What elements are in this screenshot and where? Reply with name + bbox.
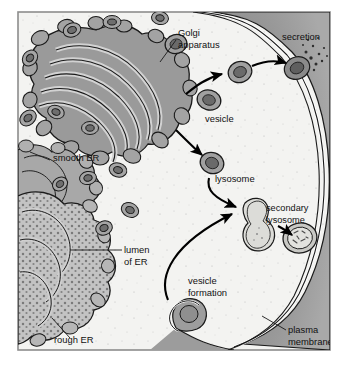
- cell-diagram-figure: Golgiapparatus secretion vesicle smooth …: [0, 0, 348, 365]
- label-secondary-lysosome: secondarylysosome: [266, 203, 309, 225]
- label-lumen-of-er: lumenof ER: [124, 244, 150, 267]
- label-lysosome: lysosome: [215, 173, 255, 184]
- label-vesicle: vesicle: [205, 113, 234, 124]
- label-secretion: secretion: [282, 31, 320, 42]
- label-smooth-er: smooth ER: [53, 152, 100, 163]
- label-rough-er: rough ER: [54, 334, 94, 345]
